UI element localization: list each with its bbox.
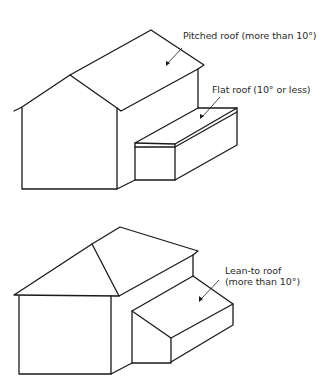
gable-end <box>14 75 117 189</box>
lean-to-roof-label-line2: (more than 10°) <box>225 276 300 287</box>
lean-to-extension <box>132 276 233 363</box>
main-wall-base <box>111 363 132 374</box>
lean-to-leader <box>202 280 219 298</box>
gable-house <box>14 30 237 189</box>
lean-to-roof-label-line1: Lean-to roof <box>225 265 281 276</box>
hipped-house <box>14 227 233 374</box>
pitched-roof-leader <box>168 48 182 63</box>
hip-line <box>92 244 119 296</box>
pitched-roof <box>70 30 204 111</box>
main-wall-base <box>117 180 135 189</box>
arrowhead-icon <box>200 114 204 119</box>
flat-roof-label: Flat roof (10° or less) <box>212 84 310 95</box>
hipped-roof <box>14 227 198 296</box>
flat-roof-leader <box>203 97 220 116</box>
pitched-roof-label: Pitched roof (more than 10°) <box>183 30 316 41</box>
flat-roof-extension <box>135 108 237 180</box>
front-wall <box>19 296 111 374</box>
arrowhead-icon <box>199 296 203 302</box>
roof-types-diagram <box>0 0 325 388</box>
